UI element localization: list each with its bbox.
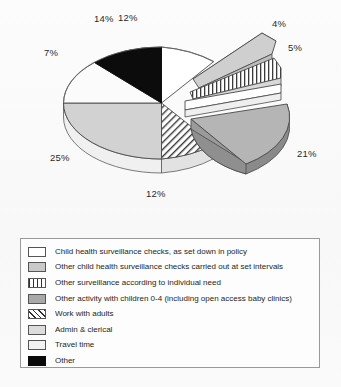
legend-swatch-medium-gray: [28, 294, 46, 304]
legend-swatch-diagonal-hatch: [28, 309, 46, 319]
legend-item-travel-time: Travel time: [28, 338, 319, 354]
legend-label: Other surveillance according to individu…: [55, 278, 221, 288]
legend-swatch-off-white: [28, 340, 46, 350]
pct-label-child-health-policy: 12%: [118, 12, 138, 23]
legend-swatch-light-gray: [28, 262, 46, 272]
legend-label: Other: [55, 356, 75, 366]
pct-label-other-checks: 4%: [272, 18, 286, 29]
legend-label: Other child health surveillance checks c…: [55, 262, 283, 272]
legend-item-other: Other: [28, 353, 319, 369]
legend-swatch-white: [28, 247, 46, 257]
pct-label-work-with-adults: 12%: [146, 188, 166, 199]
legend-swatch-pale-gray: [28, 325, 46, 335]
legend-item-work-with-adults: Work with adults: [28, 306, 319, 322]
legend-label: Admin & clerical: [55, 325, 112, 335]
pie-chart-svg: [0, 0, 341, 225]
legend-item-child-health-policy: Child health surveillance checks, as set…: [28, 244, 319, 260]
legend-item-individual-need: Other surveillance according to individu…: [28, 275, 319, 291]
legend-swatch-vertical-stripes: [28, 278, 46, 288]
legend-label: Travel time: [55, 340, 94, 350]
pct-label-individual-need: 5%: [288, 42, 302, 53]
chart-legend: Child health surveillance checks, as set…: [20, 238, 320, 368]
chart-page: 12% 4% 5% 21% 12% 25% 7% 14% Child healt…: [0, 0, 341, 387]
legend-swatch-black: [28, 356, 46, 366]
exploded-slice-children-activity: [191, 104, 290, 174]
pct-label-other: 14%: [94, 13, 114, 24]
legend-label: Other activity with children 0-4 (includ…: [55, 294, 292, 304]
legend-item-admin-clerical: Admin & clerical: [28, 322, 319, 338]
pct-label-admin-clerical: 25%: [50, 152, 70, 163]
legend-item-other-checks: Other child health surveillance checks c…: [28, 260, 319, 276]
legend-item-children-activity: Other activity with children 0-4 (includ…: [28, 291, 319, 307]
slice-admin-clerical: [64, 103, 162, 159]
pct-label-children-activity: 21%: [297, 148, 317, 159]
legend-label: Work with adults: [55, 309, 114, 319]
page-footer-cutoff: [0, 372, 341, 387]
legend-label: Child health surveillance checks, as set…: [55, 247, 247, 257]
pct-label-travel-time: 7%: [44, 47, 58, 58]
pie-chart: 12% 4% 5% 21% 12% 25% 7% 14%: [0, 0, 341, 225]
